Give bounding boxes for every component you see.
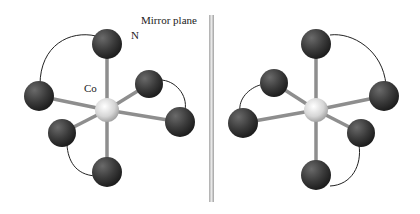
nitrogen-atom xyxy=(260,69,288,97)
nitrogen-atom xyxy=(301,29,331,59)
nitrogen-atom xyxy=(135,70,163,98)
nitrogen-atom xyxy=(48,119,76,147)
diagram-canvas xyxy=(0,0,420,214)
nitrogen-atom xyxy=(301,160,331,190)
nitrogen-atom xyxy=(92,157,122,187)
cobalt-atom xyxy=(95,98,119,122)
nitrogen-atom xyxy=(369,81,399,111)
nitrogen-atom xyxy=(165,107,195,137)
nitrogen-label: N xyxy=(131,29,139,41)
cobalt-label: Co xyxy=(84,82,97,94)
mirror-plane-label: Mirror plane xyxy=(141,14,197,26)
left-enantiomer xyxy=(24,29,195,187)
nitrogen-atom xyxy=(24,81,54,111)
nitrogen-atom xyxy=(347,119,375,147)
cobalt-atom xyxy=(304,98,328,122)
right-enantiomer xyxy=(228,29,399,190)
mirror-plane xyxy=(209,15,214,202)
nitrogen-atom xyxy=(228,108,258,138)
nitrogen-atom xyxy=(92,29,122,59)
